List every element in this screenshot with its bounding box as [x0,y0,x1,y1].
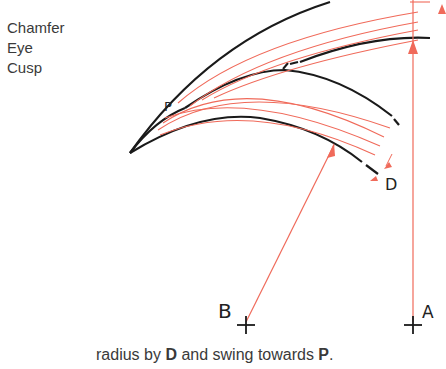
lower-arc [130,117,362,162]
middle-arc-dash [394,119,399,125]
caption-p: P [318,346,329,363]
lower-construction-arcs [158,99,390,155]
cross-a-icon [404,316,422,334]
caption-prefix: radius by [96,346,165,363]
d-arrow-lower-icon [370,176,378,181]
outer-arc [130,2,330,153]
caption: radius by D and swing towards P. [96,346,333,364]
arrow-top-right-icon [438,4,446,14]
label-d: D [385,175,397,194]
caption-d: D [165,346,177,363]
label-a: A [422,302,434,322]
arrow-b-icon [327,143,335,158]
caption-suffix: . [329,346,333,363]
label-p: P [164,99,172,114]
cross-b-icon [237,316,255,334]
radius-line-b [246,145,334,322]
caption-middle: and swing towards [177,346,318,363]
upper-inner-arc-short [290,62,298,64]
middle-arc [185,70,392,116]
lower-arc-dash [366,165,378,174]
label-b: B [218,299,232,323]
